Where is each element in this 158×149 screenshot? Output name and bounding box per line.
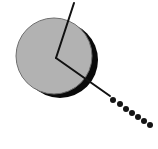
trail-dot (123, 106, 129, 112)
diagram-svg (0, 0, 158, 149)
trail-dot (110, 97, 116, 103)
gray-ball (16, 18, 92, 94)
trail-dot (147, 122, 153, 128)
trail-dot (129, 110, 135, 116)
trail-dot (117, 101, 123, 107)
figure-canvas (0, 0, 158, 149)
trail-dot (135, 114, 141, 120)
trail-dot (141, 118, 147, 124)
